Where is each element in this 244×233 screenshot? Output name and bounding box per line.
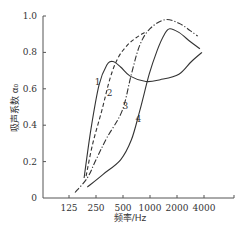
- x-tick-label: 125: [60, 203, 77, 213]
- curve-3: [75, 19, 198, 192]
- curve-labels: 1234: [95, 77, 142, 123]
- axes: 00.20.40.60.81.0125250500100020004000: [23, 11, 234, 213]
- curves: [75, 19, 202, 192]
- x-axis-title: 频率/Hz: [114, 212, 147, 223]
- y-tick-label: 0.4: [23, 120, 38, 130]
- x-tick-label: 2000: [166, 203, 189, 213]
- x-tick-label: 500: [114, 203, 131, 213]
- y-tick-label: 1.0: [23, 11, 38, 21]
- x-tick-label: 4000: [193, 203, 216, 213]
- y-axis-title: 吸声系数 α₀: [9, 83, 20, 132]
- x-tick-label: 250: [87, 203, 104, 213]
- curve-label-1: 1: [95, 77, 101, 87]
- curve-4: [87, 29, 200, 187]
- y-tick-label: 0.6: [23, 84, 38, 94]
- y-tick-label: 0.2: [23, 157, 37, 167]
- curve-1: [84, 52, 202, 178]
- x-tick-label: 1000: [139, 203, 162, 213]
- curve-label-3: 3: [122, 101, 128, 111]
- y-tick-label: 0: [31, 193, 37, 203]
- y-tick-label: 0.8: [23, 47, 38, 57]
- curve-label-2: 2: [107, 88, 113, 98]
- curve-label-4: 4: [135, 114, 141, 124]
- absorption-chart: 00.20.40.60.81.0125250500100020004000 12…: [0, 0, 244, 233]
